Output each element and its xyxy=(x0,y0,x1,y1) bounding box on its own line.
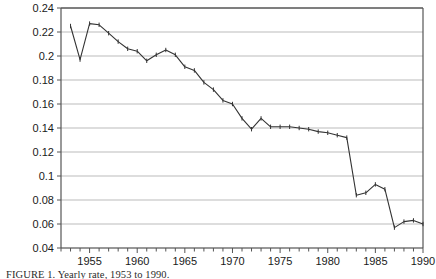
y-tick-label: 0.18 xyxy=(33,74,54,86)
x-tick-label: 1960 xyxy=(125,255,149,267)
chart-layer: 0.040.060.080.10.120.140.160.180.20.220.… xyxy=(33,2,436,267)
y-tick-label: 0.14 xyxy=(33,122,54,134)
y-tick-label: 0.12 xyxy=(33,146,54,158)
line-chart: 0.040.060.080.10.120.140.160.180.20.220.… xyxy=(0,0,436,279)
y-tick-label: 0.06 xyxy=(33,218,54,230)
y-tick-label: 0.08 xyxy=(33,194,54,206)
y-tick-label: 0.04 xyxy=(33,242,54,254)
figure-container: 0.040.060.080.10.120.140.160.180.20.220.… xyxy=(0,0,436,279)
figure-caption: FIGURE 1. Yearly rate, 1953 to 1990. xyxy=(6,268,426,279)
x-tick-label: 1965 xyxy=(173,255,197,267)
x-tick-label: 1975 xyxy=(268,255,292,267)
y-tick-label: 0.24 xyxy=(33,2,54,14)
x-tick-label: 1955 xyxy=(77,255,101,267)
x-tick-label: 1980 xyxy=(315,255,339,267)
y-tick-label: 0.1 xyxy=(39,170,54,182)
x-tick-label: 1990 xyxy=(411,255,435,267)
y-tick-label: 0.16 xyxy=(33,98,54,110)
x-tick-label: 1970 xyxy=(220,255,244,267)
data-series-line xyxy=(71,24,423,228)
x-tick-label: 1985 xyxy=(363,255,387,267)
y-tick-label: 0.2 xyxy=(39,50,54,62)
y-tick-label: 0.22 xyxy=(33,26,54,38)
